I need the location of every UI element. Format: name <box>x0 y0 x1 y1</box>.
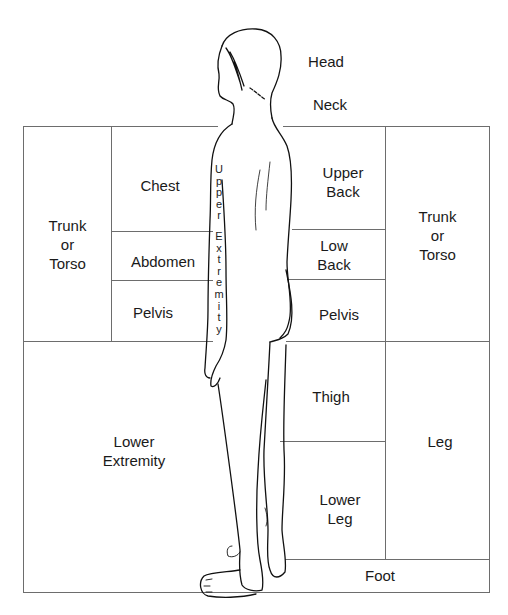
label-leg: Leg <box>410 432 470 451</box>
label-upper-extremity: U p p e r E x t r e m i t y <box>213 164 225 335</box>
scapula-lines <box>255 162 270 230</box>
label-lower-leg: Lower Leg <box>305 490 375 528</box>
head-outline <box>222 29 281 118</box>
label-low-back: Low Back <box>304 236 364 274</box>
label-trunk-or-torso-right: Trunk or Torso <box>395 207 480 264</box>
front-foot <box>201 570 256 597</box>
back-heel <box>227 546 240 557</box>
buttock-line <box>270 270 292 342</box>
label-neck: Neck <box>300 95 360 114</box>
toes <box>204 579 212 592</box>
label-pelvis-front: Pelvis <box>118 303 188 322</box>
ear-jaw <box>250 88 266 100</box>
label-chest: Chest <box>125 176 195 195</box>
label-lower-extremity: Lower Extremity <box>80 432 188 470</box>
hair-strands <box>226 48 244 90</box>
label-trunk-or-torso-left: Trunk or Torso <box>24 216 111 273</box>
back-leg-outline <box>264 342 286 577</box>
label-pelvis-back: Pelvis <box>304 305 374 324</box>
label-thigh: Thigh <box>300 387 362 406</box>
label-foot: Foot <box>350 566 410 585</box>
front-leg-outline <box>218 380 266 591</box>
label-abdomen: Abdomen <box>118 252 208 271</box>
human-figure-illustration <box>0 0 508 615</box>
label-head: Head <box>296 52 356 71</box>
back-outline <box>272 118 292 338</box>
label-upper-back: Upper Back <box>308 163 378 201</box>
